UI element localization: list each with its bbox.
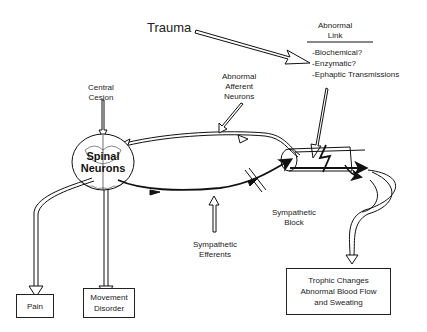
abnormal-afferent-label: Abnormal Afferent Neurons (222, 72, 256, 102)
abnormal-link-item: -Ephaptic Transmissions (312, 69, 399, 80)
spinal-neurons-label: Spinal Neurons (79, 150, 127, 174)
movement-disorder-box: Movement Disorder (83, 288, 135, 318)
abnormal-link-title: Abnormal Link (318, 21, 352, 41)
pain-box: Pain (16, 294, 54, 318)
sympathetic-block-label: Sympathetic Block (272, 208, 316, 228)
central-lesion-label: Central Cesion (88, 83, 114, 103)
abnormal-link-item: -Enzymatic? (312, 58, 399, 69)
abnormal-link-item: -Biochemical? (312, 47, 399, 58)
abnormal-link-list: -Biochemical? -Enzymatic? -Ephaptic Tran… (312, 47, 399, 80)
trophic-changes-box: Trophic Changes Abnormal Blood Flow and … (286, 268, 391, 315)
trauma-label: Trauma (147, 20, 191, 35)
sympathetic-efferents-label: Sympathetic Efferents (193, 240, 237, 260)
trauma-arrow (195, 30, 310, 64)
